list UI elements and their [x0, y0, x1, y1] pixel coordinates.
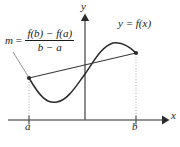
point-a-marker [27, 76, 31, 80]
x-tick-label-b: b [132, 121, 138, 132]
function-label: y = f(x) [118, 18, 151, 29]
fraction-denominator: b − a [36, 41, 64, 53]
x-axis-arrowhead [162, 116, 170, 125]
x-tick-label-a: a [25, 121, 31, 132]
formula-leader-line [13, 52, 29, 77]
y-axis-arrowhead [81, 14, 89, 22]
equals-sign: = [15, 35, 22, 46]
slope-variable-label: m [5, 35, 13, 46]
slope-formula: m = f(b) − f(a) b − a [5, 28, 74, 53]
fraction-numerator: f(b) − f(a) [25, 28, 74, 40]
secant-slope-figure: y x a b y = f(x) m = f(b) − f(a) b − a [0, 0, 180, 147]
slope-fraction: f(b) − f(a) b − a [25, 28, 74, 53]
secant-line [29, 53, 136, 78]
point-b-marker [134, 51, 138, 55]
x-axis-label: x [171, 110, 176, 121]
y-axis-label: y [81, 1, 86, 12]
